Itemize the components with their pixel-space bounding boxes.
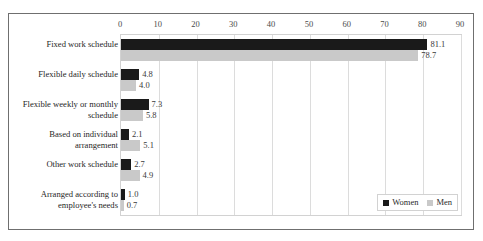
x-axis-tick-labels: 0102030405060708090 — [9, 16, 473, 32]
bar-value-label: 4.0 — [136, 79, 150, 91]
legend-item-men: Men — [427, 197, 452, 208]
bar-slot-men: 4.9 — [121, 170, 461, 181]
bar-slot-men: 4.0 — [121, 80, 461, 91]
chart-category-row: Fixed work schedule81.178.7 — [121, 35, 461, 65]
bar-women[interactable] — [121, 159, 131, 170]
bar-men[interactable] — [121, 50, 418, 61]
bar-chart: 0102030405060708090 Fixed work schedule8… — [9, 14, 473, 229]
figure-frame: 0102030405060708090 Fixed work schedule8… — [8, 13, 474, 230]
bar-value-label: 0.7 — [124, 199, 138, 211]
bar-slot-men: 78.7 — [121, 50, 461, 61]
bar-men[interactable] — [121, 170, 140, 181]
bar-slot-men: 5.1 — [121, 140, 461, 151]
bar-slot-women: 2.7 — [121, 159, 461, 170]
x-axis-tick-20: 20 — [191, 16, 200, 32]
bar-slot-women: 7.3 — [121, 99, 461, 110]
category-label: Arranged according to employee's needs — [10, 189, 118, 210]
chart-category-row: Flexible daily schedule4.84.0 — [121, 65, 461, 95]
bar-slot-men: 5.8 — [121, 110, 461, 121]
legend-item-women: Women — [383, 197, 418, 208]
x-axis-tick-40: 40 — [267, 16, 276, 32]
legend-label-women: Women — [392, 197, 418, 208]
category-label: Other work schedule — [10, 159, 118, 170]
category-label: Based on individual arrangement — [10, 129, 118, 150]
category-label: Flexible weekly or monthly schedule — [10, 99, 118, 120]
chart-legend: Women Men — [377, 194, 458, 211]
bar-women[interactable] — [121, 39, 427, 50]
legend-swatch-men-icon — [427, 200, 433, 206]
legend-swatch-women-icon — [383, 200, 389, 206]
x-axis-tick-0: 0 — [118, 16, 122, 32]
x-axis-tick-30: 30 — [229, 16, 238, 32]
bar-slot-women: 81.1 — [121, 39, 461, 50]
cut-off-text-remnant — [0, 0, 483, 7]
bar-slot-women: 2.1 — [121, 129, 461, 140]
category-label: Fixed work schedule — [10, 39, 118, 50]
category-rows: Fixed work schedule81.178.7Flexible dail… — [121, 35, 461, 215]
x-axis-tick-90: 90 — [456, 16, 465, 32]
bar-men[interactable] — [121, 140, 140, 151]
bar-pair: 81.178.7 — [121, 39, 461, 61]
x-axis-tick-50: 50 — [305, 16, 314, 32]
bar-value-label: 5.1 — [140, 139, 154, 151]
bar-pair: 4.84.0 — [121, 69, 461, 91]
x-axis-tick-10: 10 — [154, 16, 163, 32]
chart-category-row: Flexible weekly or monthly schedule7.35.… — [121, 95, 461, 125]
bar-women[interactable] — [121, 129, 129, 140]
gridline-90 — [461, 35, 462, 215]
plot-area: Fixed work schedule81.178.7Flexible dail… — [120, 34, 462, 216]
category-label: Flexible daily schedule — [10, 69, 118, 80]
bar-value-label: 78.7 — [418, 49, 436, 61]
chart-category-row: Other work schedule2.74.9 — [121, 155, 461, 185]
bar-value-label: 5.8 — [143, 109, 157, 121]
bar-slot-women: 4.8 — [121, 69, 461, 80]
x-axis-tick-80: 80 — [418, 16, 427, 32]
bar-men[interactable] — [121, 80, 136, 91]
chart-category-row: Based on individual arrangement2.15.1 — [121, 125, 461, 155]
x-axis-tick-60: 60 — [342, 16, 351, 32]
x-axis-tick-70: 70 — [380, 16, 389, 32]
bar-pair: 7.35.8 — [121, 99, 461, 121]
bar-pair: 2.15.1 — [121, 129, 461, 151]
legend-label-men: Men — [436, 197, 452, 208]
bar-value-label: 4.9 — [140, 169, 154, 181]
bar-pair: 2.74.9 — [121, 159, 461, 181]
bar-men[interactable] — [121, 110, 143, 121]
